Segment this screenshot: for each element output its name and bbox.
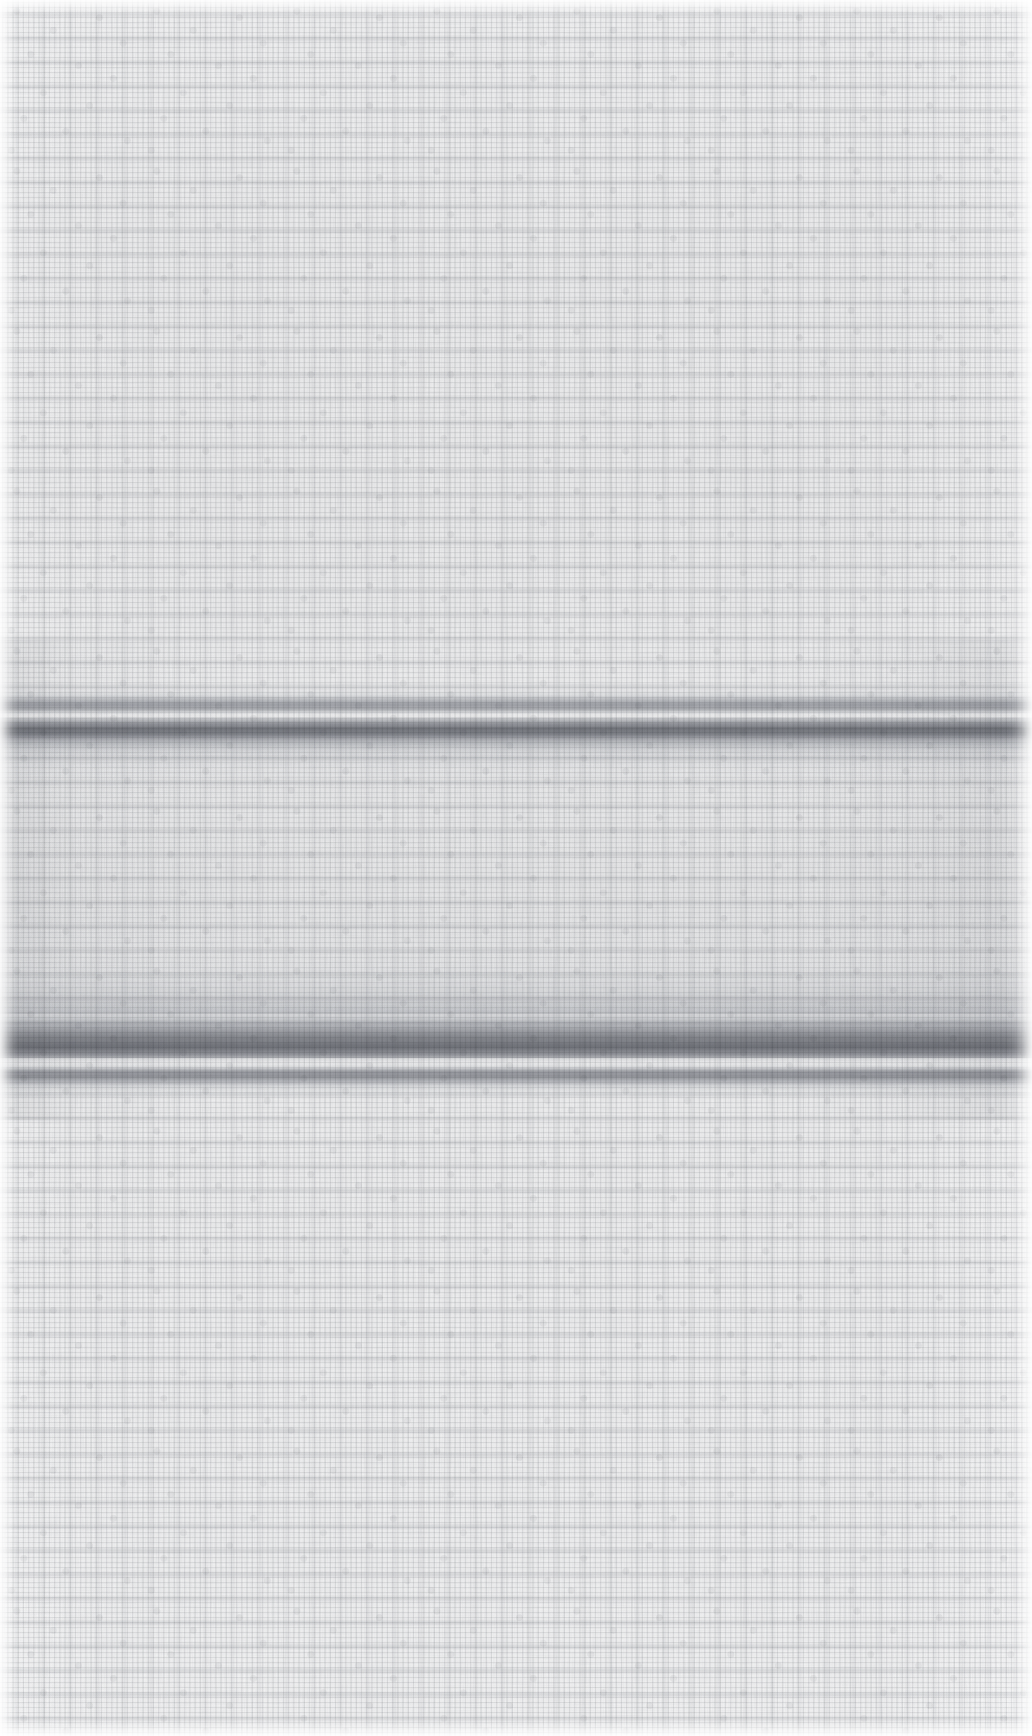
raised-middle-band (0, 718, 1032, 1058)
fabric-photograph: White woven fabric with two horizontal f… (0, 0, 1032, 1736)
